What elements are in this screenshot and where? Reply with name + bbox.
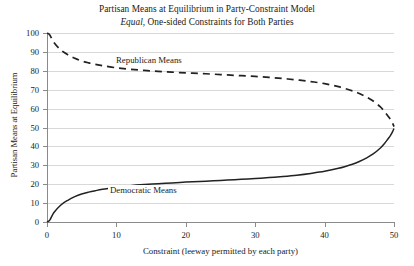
y-axis-tick — [43, 109, 47, 110]
x-axis-tick-label: 0 — [32, 231, 62, 240]
series-layer — [0, 0, 414, 266]
x-axis-tick-label: 30 — [240, 231, 270, 240]
x-axis-tick — [186, 223, 187, 227]
y-axis-tick-label: 30 — [13, 161, 39, 170]
y-axis-tick-label: 20 — [13, 180, 39, 189]
chart-figure: Partisan Means at Equilibrium in Party-C… — [0, 0, 414, 266]
series-line-democratic-means — [47, 128, 394, 222]
x-axis-label: Constraint (leeway permitted by each par… — [47, 246, 394, 256]
y-axis-tick-label: 70 — [13, 86, 39, 95]
series-line-republican-means — [47, 33, 394, 127]
y-axis-tick-label: 40 — [13, 142, 39, 151]
y-axis-tick-label: 10 — [13, 199, 39, 208]
y-axis-tick — [43, 33, 47, 34]
series-annotation-democratic: Democratic Means — [108, 185, 179, 195]
y-axis-tick — [43, 128, 47, 129]
y-axis-tick-label: 0 — [13, 218, 39, 227]
x-axis-tick-label: 40 — [310, 231, 340, 240]
y-axis-tick — [43, 146, 47, 147]
y-axis-tick-label: 60 — [13, 105, 39, 114]
y-axis-tick — [43, 203, 47, 204]
y-axis-tick — [43, 90, 47, 91]
y-axis-tick-label: 90 — [13, 48, 39, 57]
y-axis-tick-label: 80 — [13, 67, 39, 76]
x-axis-tick — [47, 223, 48, 227]
x-axis-tick — [394, 223, 395, 227]
x-axis-tick-label: 10 — [101, 231, 131, 240]
x-axis-tick-label: 20 — [171, 231, 201, 240]
series-annotation-republican: Republican Means — [114, 55, 184, 65]
x-axis-tick — [116, 223, 117, 227]
y-axis-tick-label: 100 — [13, 29, 39, 38]
x-axis-tick — [255, 223, 256, 227]
x-axis-tick-label: 50 — [379, 231, 409, 240]
y-axis-tick — [43, 71, 47, 72]
y-axis-tick — [43, 184, 47, 185]
y-axis-tick — [43, 52, 47, 53]
x-axis-tick — [325, 223, 326, 227]
y-axis-tick — [43, 165, 47, 166]
y-axis-tick-label: 50 — [13, 124, 39, 133]
